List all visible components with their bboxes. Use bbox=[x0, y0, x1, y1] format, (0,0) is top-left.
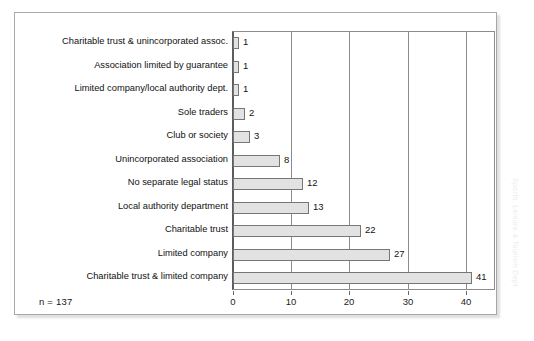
bar-row: 22 bbox=[233, 220, 496, 243]
category-label: Charitable trust bbox=[165, 224, 228, 234]
bar-row: 1 bbox=[233, 56, 496, 79]
source-credit-watermark: Sports, Leisure & Tourism Dept bbox=[512, 178, 519, 338]
bar bbox=[233, 37, 239, 49]
bar bbox=[233, 178, 303, 190]
category-label: Unincorporated association bbox=[115, 154, 228, 164]
bar-row: 1 bbox=[233, 79, 496, 102]
bar-row: 1 bbox=[233, 32, 496, 55]
bar-row: 13 bbox=[233, 197, 496, 220]
category-label: Charitable trust & limited company bbox=[86, 271, 228, 281]
category-label: Charitable trust & unincorporated assoc. bbox=[62, 36, 228, 46]
x-tick-label: 0 bbox=[230, 296, 235, 307]
x-tick-label: 30 bbox=[403, 296, 414, 307]
x-tick-30 bbox=[408, 291, 409, 295]
category-axis-labels: Charitable trust & unincorporated assoc.… bbox=[35, 31, 228, 290]
plot-area: 0102030401112381213222741 bbox=[232, 31, 495, 290]
category-label: Club or society bbox=[167, 130, 229, 140]
bar bbox=[233, 225, 361, 237]
bar-value-label: 27 bbox=[394, 248, 405, 259]
bar-value-label: 2 bbox=[249, 107, 254, 118]
x-tick-20 bbox=[349, 291, 350, 295]
figure-frame: Charitable trust & unincorporated assoc.… bbox=[14, 12, 497, 315]
bar-row: 2 bbox=[233, 103, 496, 126]
x-tick-label: 10 bbox=[286, 296, 297, 307]
category-label: Limited company/local authority dept. bbox=[75, 83, 228, 93]
bar bbox=[233, 108, 245, 120]
category-label: Local authority department bbox=[118, 201, 228, 211]
x-tick-0 bbox=[233, 291, 234, 295]
bar bbox=[233, 84, 239, 96]
bar bbox=[233, 249, 390, 261]
bar-value-label: 1 bbox=[243, 83, 248, 94]
bar bbox=[233, 272, 472, 284]
bar-row: 27 bbox=[233, 244, 496, 267]
bar-row: 41 bbox=[233, 267, 496, 290]
category-label: Limited company bbox=[158, 248, 228, 258]
bar-value-label: 13 bbox=[313, 201, 324, 212]
bar-value-label: 3 bbox=[254, 130, 259, 141]
category-label: Sole traders bbox=[178, 107, 228, 117]
sample-size-note: n = 137 bbox=[39, 296, 72, 307]
bar bbox=[233, 155, 280, 167]
bar-value-label: 41 bbox=[476, 271, 487, 282]
category-label: Association limited by guarantee bbox=[94, 60, 228, 70]
bar bbox=[233, 61, 239, 73]
bar-row: 8 bbox=[233, 150, 496, 173]
bar-value-label: 1 bbox=[243, 60, 248, 71]
bar-value-label: 12 bbox=[307, 177, 318, 188]
bar bbox=[233, 202, 309, 214]
x-tick-label: 20 bbox=[344, 296, 355, 307]
bar bbox=[233, 131, 250, 143]
x-tick-10 bbox=[291, 291, 292, 295]
x-tick-label: 40 bbox=[461, 296, 472, 307]
bar-value-label: 8 bbox=[284, 154, 289, 165]
bar-row: 3 bbox=[233, 126, 496, 149]
x-tick-40 bbox=[466, 291, 467, 295]
bar-value-label: 22 bbox=[365, 224, 376, 235]
category-label: No separate legal status bbox=[128, 177, 228, 187]
bar-row: 12 bbox=[233, 173, 496, 196]
bar-value-label: 1 bbox=[243, 36, 248, 47]
